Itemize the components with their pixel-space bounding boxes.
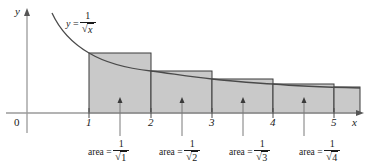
area-denominator-1: √1	[113, 151, 129, 164]
area-denominator-2: √2	[184, 151, 200, 164]
area-numerator-1: 1	[113, 139, 129, 150]
radical-icon: √	[115, 152, 121, 162]
x-tick-label-5: 5	[331, 117, 337, 128]
area-sqrt-4: √4	[326, 151, 338, 164]
area-label-4: area= 1 √4	[299, 140, 340, 165]
area-numerator-2: 1	[184, 139, 200, 150]
y-axis-arrowhead	[24, 8, 30, 16]
curve-equals: =	[73, 18, 79, 29]
area-equals-3: =	[247, 147, 252, 157]
x-tick-label-3: 3	[209, 117, 215, 128]
area-numerator-3: 1	[254, 139, 270, 150]
rectangle-5-partial	[334, 87, 360, 113]
area-radicand-1: 1	[120, 151, 127, 163]
area-label-1: area= 1 √1	[88, 140, 129, 165]
area-sqrt-2: √2	[186, 151, 198, 164]
x-tick-label-1: 1	[86, 117, 92, 128]
origin-label: 0	[14, 117, 20, 128]
area-equals-4: =	[317, 147, 322, 157]
area-word-4: area	[299, 147, 315, 157]
radical-icon: √	[256, 152, 262, 162]
radical-icon: √	[326, 152, 332, 162]
curve-equation-label: y= 1 √x	[66, 12, 96, 37]
figure-container: y x 0 1 2 3 4 5 y= 1 √x area= 1 √1 area=…	[0, 0, 373, 165]
curve-numerator: 1	[80, 11, 95, 22]
area-radicand-3: 3	[261, 151, 268, 163]
area-word-2: area	[159, 147, 175, 157]
y-axis-label: y	[15, 6, 20, 17]
area-equals-1: =	[106, 147, 111, 157]
curve-denominator: √x	[80, 23, 95, 36]
area-equals-2: =	[177, 147, 182, 157]
radical-icon: √	[82, 24, 88, 34]
area-denominator-3: √3	[254, 151, 270, 164]
x-tick-label-4: 4	[270, 117, 276, 128]
area-fraction-1: 1 √1	[113, 139, 129, 164]
area-word-1: area	[88, 147, 104, 157]
area-radicand-2: 2	[191, 151, 198, 163]
x-axis-label: x	[352, 117, 357, 128]
area-fraction-4: 1 √4	[324, 139, 340, 164]
area-fraction-2: 1 √2	[184, 139, 200, 164]
curve-radicand: x	[87, 23, 93, 35]
rectangles-group	[89, 53, 360, 113]
x-tick-label-2: 2	[148, 117, 154, 128]
area-label-3: area= 1 √3	[229, 140, 270, 165]
area-denominator-4: √4	[324, 151, 340, 164]
area-fraction-3: 1 √3	[254, 139, 270, 164]
radical-icon: √	[186, 152, 192, 162]
area-label-2: area= 1 √2	[159, 140, 200, 165]
area-sqrt-1: √1	[115, 151, 127, 164]
area-numerator-4: 1	[324, 139, 340, 150]
area-radicand-4: 4	[331, 151, 338, 163]
curve-fraction: 1 √x	[80, 11, 95, 36]
curve-lhs: y	[66, 18, 70, 29]
area-word-3: area	[229, 147, 245, 157]
area-sqrt-3: √3	[256, 151, 268, 164]
curve-sqrt: √x	[82, 23, 93, 36]
